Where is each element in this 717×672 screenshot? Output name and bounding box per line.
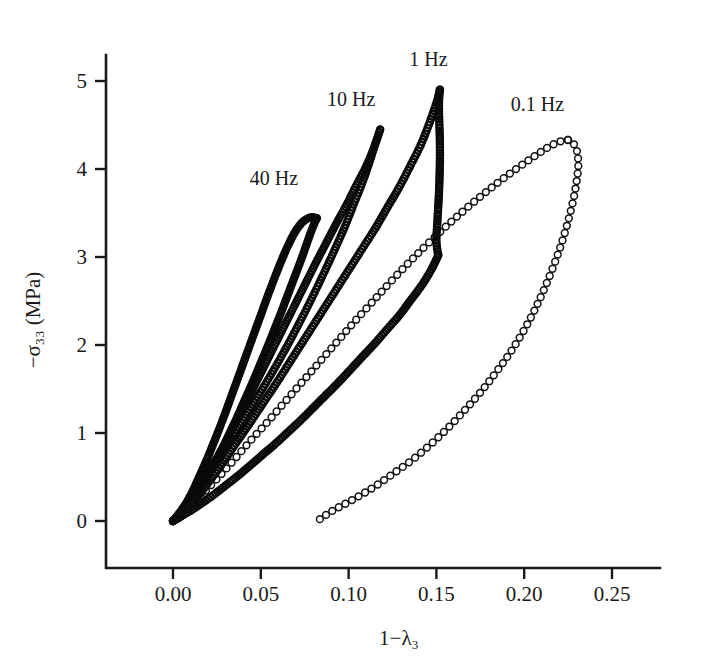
data-point-marker [572,185,579,192]
y-tick-label: 2 [77,333,88,357]
y-axis-title: −σ₃₃ (MPa) [21,272,45,369]
data-point-marker [374,481,381,488]
data-point-marker [477,193,484,200]
data-point-marker [394,271,401,278]
data-point-marker [540,287,547,294]
x-axis-title: 1−λ₃ [379,626,419,650]
data-point-marker [575,163,582,170]
data-point-marker [248,436,255,443]
data-point-marker [389,277,396,284]
data-point-marker [399,463,406,470]
data-point-marker [429,439,436,446]
data-point-marker [404,260,411,267]
data-point-marker [399,266,406,273]
data-point-marker [574,148,581,155]
data-point-marker [575,155,582,162]
data-point-marker [273,408,280,415]
data-point-marker [393,468,400,475]
data-point-marker [571,141,578,148]
y-tick-label: 3 [77,245,88,269]
data-point-marker [381,477,388,484]
data-point-marker [418,449,425,456]
data-point-marker [550,141,557,148]
y-tick-label: 4 [77,157,88,181]
data-point-marker [531,307,538,314]
data-point-marker [362,489,369,496]
data-point-marker [335,504,342,511]
data-point-marker [516,334,523,341]
branch-loading [170,137,572,525]
y-axis-ticks [95,81,106,521]
data-point-marker [504,353,511,360]
data-point-marker [574,170,581,177]
data-point-marker [349,497,356,504]
data-point-marker [557,138,564,145]
data-point-marker [263,419,270,426]
data-point-marker [544,144,551,151]
data-point-marker [342,500,349,507]
figure-container: 0.000.050.100.150.200.25 012345 40 Hz10 … [0,0,717,672]
x-tick-label: 0.00 [155,582,192,606]
data-point-marker [288,391,295,398]
y-tick-label: 1 [77,421,88,445]
data-point-marker [233,454,240,461]
data-point-marker [512,341,519,348]
data-point-marker [563,222,570,229]
data-point-marker [283,397,290,404]
data-point-marker [462,406,469,413]
data-point-marker [348,322,355,329]
data-point-marker [318,356,325,363]
data-point-marker [323,512,330,519]
data-point-marker [549,265,556,272]
data-point-marker [573,178,580,185]
data-point-marker [500,175,507,182]
data-point-marker [316,516,323,523]
data-point-marker [313,362,320,369]
data-point-marker [333,339,340,346]
x-tick-label: 0.15 [418,582,455,606]
data-point-marker [303,374,310,381]
data-point-marker [531,153,538,160]
data-point-marker [508,347,515,354]
data-point-marker [543,280,550,287]
data-point-marker [561,230,568,237]
curve-label-10-hz: 10 Hz [327,88,375,110]
data-point-marker [442,223,449,230]
stress-strain-hysteresis-chart: 0.000.050.100.150.200.25 012345 40 Hz10 … [0,0,717,672]
data-point-marker [565,215,572,222]
data-point-marker [525,157,532,164]
y-axis-title-text: −σ₃₃ (MPa) [21,272,45,369]
y-tick-label: 5 [77,69,88,93]
data-point-marker [456,412,463,419]
data-point-marker [238,448,245,455]
data-point-marker [387,472,394,479]
data-point-marker [383,283,390,290]
data-point-marker [446,423,453,430]
data-point-marker [278,402,285,409]
data-point-marker [451,418,458,425]
data-point-marker [293,385,300,392]
data-point-marker [338,333,345,340]
data-point-marker [519,161,526,168]
data-point-marker [420,244,427,251]
data-point-marker [554,251,561,258]
data-point-marker [513,166,520,173]
data-point-marker [569,200,576,207]
data-point-marker [557,244,564,251]
data-point-marker [328,345,335,352]
data-point-marker [499,360,506,367]
curve-label-0-1-hz: 0.1 Hz [511,93,564,115]
data-point-marker [268,414,275,421]
data-point-marker [495,366,502,373]
data-point-marker [298,379,305,386]
data-point-marker [559,237,566,244]
data-point-marker [424,444,431,451]
data-point-marker [534,300,541,307]
data-point-marker [537,148,544,155]
data-point-marker [552,258,559,265]
data-series-layer [170,87,582,525]
series-40-hz [170,214,320,524]
x-tick-label: 0.05 [242,582,279,606]
data-point-marker [308,368,315,375]
data-point-marker [343,328,350,335]
